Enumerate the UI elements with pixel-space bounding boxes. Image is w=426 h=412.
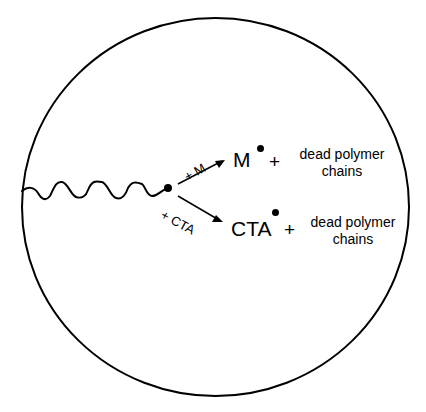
plus-sign-cta: +	[284, 220, 295, 239]
byproduct-cta-line1: dead polymer	[303, 214, 403, 231]
polymer-chain	[22, 181, 166, 199]
radical-dot-m	[257, 145, 264, 152]
byproduct-m-line1: dead polymer	[292, 146, 392, 163]
byproduct-m: dead polymer chains	[292, 146, 392, 180]
byproduct-cta: dead polymer chains	[303, 214, 403, 248]
plus-sign-m: +	[269, 152, 280, 171]
radical-dot	[164, 184, 172, 192]
particle-circle	[22, 18, 409, 396]
byproduct-m-line2: chains	[292, 163, 392, 180]
product-m: M	[233, 149, 251, 170]
product-cta: CTA	[231, 218, 271, 239]
reaction-diagram	[0, 0, 426, 412]
byproduct-cta-line2: chains	[303, 231, 403, 248]
radical-dot-cta	[272, 209, 279, 216]
